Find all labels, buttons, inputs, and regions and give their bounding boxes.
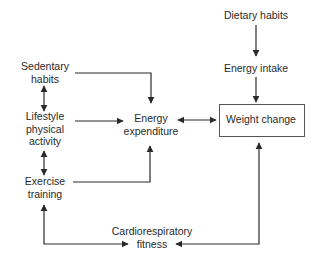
cardio-line2: fitness [112,238,193,251]
exercise-line2: training [25,188,65,201]
expenditure-line2: expenditure [124,125,179,138]
exercise-line1: Exercise [25,175,65,188]
expenditure-line1: Energy [124,112,179,125]
cardio-line1: Cardiorespiratory [112,225,193,238]
arrow-sedentary-to-expenditure [75,73,151,103]
lifestyle-line3: activity [26,135,65,148]
node-exercise-training: Exercise training [25,175,65,200]
node-dietary-habits: Dietary habits [224,9,288,22]
lifestyle-line1: Lifestyle [26,110,65,123]
node-energy-expenditure: Energy expenditure [124,112,179,137]
sedentary-line1: Sedentary [21,60,69,73]
arrow-exercise-to-expenditure [73,146,150,182]
sedentary-line2: habits [21,73,69,86]
node-energy-intake: Energy intake [224,62,288,75]
lifestyle-line2: physical [26,123,65,136]
node-cardio-fitness: Cardiorespiratory fitness [112,225,193,250]
node-weight-change: Weight change [226,113,296,126]
node-sedentary-habits: Sedentary habits [21,60,69,85]
node-lifestyle-activity: Lifestyle physical activity [26,110,65,148]
